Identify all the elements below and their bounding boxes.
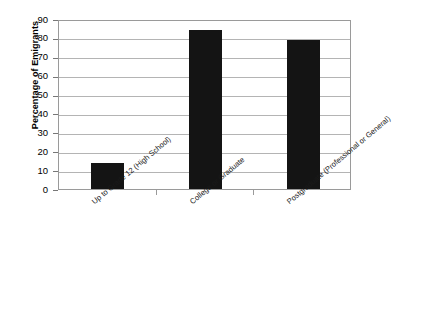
y-axis-tick-mark [53, 190, 58, 191]
plot-area [58, 20, 351, 190]
y-axis-tick-label: 10 [8, 166, 48, 176]
y-axis-tick-label: 90 [8, 15, 48, 25]
x-axis-tick-mark [156, 190, 157, 195]
y-axis-tick-label: 70 [8, 52, 48, 62]
y-axis-tick-label: 50 [8, 90, 48, 100]
y-axis-tick-label: 0 [8, 185, 48, 195]
y-axis-tick-label: 60 [8, 71, 48, 81]
bar-chart: Percentage of Emigrants 0102030405060708… [0, 0, 430, 328]
y-axis-tick-label: 20 [8, 147, 48, 157]
y-axis-tick-label: 80 [8, 33, 48, 43]
y-axis-tick-label: 30 [8, 128, 48, 138]
bar [189, 30, 222, 189]
bar [287, 40, 320, 189]
x-axis-tick-mark [253, 190, 254, 195]
y-axis-tick-label: 40 [8, 109, 48, 119]
